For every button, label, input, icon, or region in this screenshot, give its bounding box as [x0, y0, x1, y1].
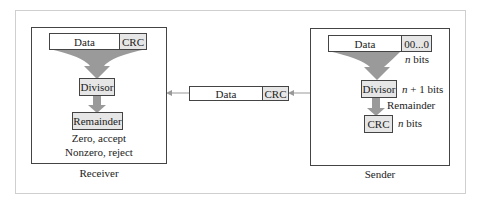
- receiver-crc-cell: CRC: [119, 33, 147, 50]
- receiver-data-cell: Data: [49, 33, 120, 50]
- receiver-title: Receiver: [31, 167, 167, 179]
- sender-padding-cell: 00...0: [401, 35, 432, 52]
- sender-title: Sender: [310, 168, 450, 180]
- sender-crc-bits: n bits: [398, 117, 422, 129]
- sender-data-cell: Data: [328, 35, 402, 52]
- sender-padding-bits: n bits: [405, 53, 429, 65]
- sender-divisor-box: Divisor: [361, 80, 397, 98]
- receiver-result-zero: Zero, accept: [31, 132, 167, 144]
- sender-divisor-bits: n + 1 bits: [402, 83, 443, 95]
- sender-crc-box: CRC: [364, 115, 393, 133]
- sender-remainder-label: Remainder: [387, 99, 435, 111]
- receiver-remainder-box: Remainder: [72, 112, 123, 130]
- channel-data-cell: Data: [189, 86, 263, 101]
- channel-crc-cell: CRC: [262, 86, 289, 101]
- receiver-divisor-box: Divisor: [79, 78, 115, 96]
- receiver-result-nonzero: Nonzero, reject: [31, 146, 167, 158]
